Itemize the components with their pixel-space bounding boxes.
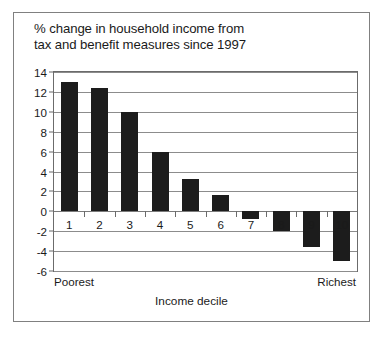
y-tick-label: 2 [41,185,47,198]
y-tick-label: -6 [37,265,47,278]
bar [303,211,320,247]
y-tick-label: -4 [37,245,47,258]
bar [121,112,138,212]
bar [61,82,78,211]
y-tick-label: 4 [41,165,47,178]
bar [212,195,229,211]
chart-figure: % change in household income from tax an… [13,12,370,322]
y-tick-label: 0 [41,205,47,218]
bar [152,152,169,212]
bar [182,179,199,211]
x-axis-title: Income decile [14,294,369,308]
axis-end-label-left: Poorest [54,275,94,288]
bar [333,211,350,261]
y-tick-label: 10 [34,105,47,118]
y-tick-label: 12 [34,85,47,98]
y-tick-label: 14 [34,66,47,79]
plot-area: 14121086420-2-4-6 12345678910 [53,71,358,272]
chart-title: % change in household income from tax an… [34,21,334,53]
bar [273,211,290,231]
y-tick-label: 8 [41,125,47,138]
bar [242,211,259,219]
gridline [54,271,357,272]
y-tick-label: -2 [37,225,47,238]
y-tick-label: 6 [41,145,47,158]
bar-series [54,72,357,271]
axis-end-label-right: Richest [317,275,356,288]
bar [91,88,108,211]
